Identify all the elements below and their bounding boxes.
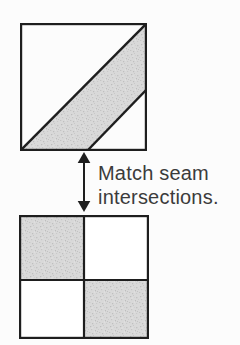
diagonal-stripe-block xyxy=(20,23,147,151)
arrowhead-down xyxy=(78,201,91,212)
double-headed-arrow-icon xyxy=(77,152,91,212)
instruction-line-2: intersections. xyxy=(98,186,219,208)
four-patch-block xyxy=(19,215,149,339)
quilt-assembly-diagram: Match seam intersections. xyxy=(0,0,240,345)
instruction-text: Match seam intersections. xyxy=(98,161,240,209)
arrowhead-up xyxy=(78,152,91,163)
quadrant-bottom-right-shaded xyxy=(84,280,149,339)
instruction-line-1: Match seam xyxy=(98,162,209,184)
quadrant-top-left-shaded xyxy=(19,215,84,280)
